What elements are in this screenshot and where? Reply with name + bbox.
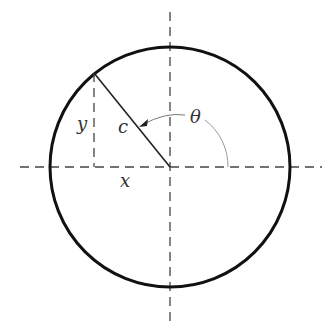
arrow-head-icon (139, 119, 148, 127)
label-theta: θ (190, 106, 201, 127)
theta-arc-upper (142, 114, 185, 125)
radius-line (94, 73, 170, 167)
label-x: x (120, 170, 130, 191)
label-c: c (118, 116, 128, 137)
circle-diagram: y c x θ (0, 0, 335, 336)
label-y: y (76, 113, 88, 134)
theta-arc (205, 120, 228, 167)
